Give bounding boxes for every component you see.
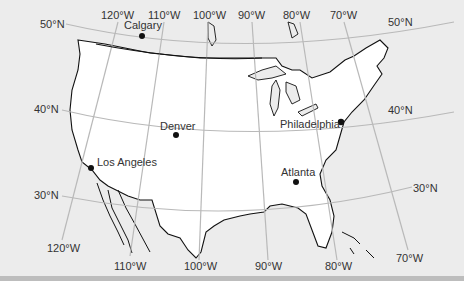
label-40n-right: 40°N [388, 104, 413, 116]
city-label-calgary: Calgary [124, 19, 162, 31]
label-90w-bottom: 90°W [255, 260, 283, 272]
label-70w-top: 70°W [330, 9, 358, 21]
city-label-los-angeles: Los Angeles [97, 156, 157, 168]
label-110w-bottom: 110°W [114, 260, 147, 272]
city-dot-atlanta [293, 179, 299, 185]
label-70w-bottom: 70°W [396, 252, 424, 264]
us-landmass [70, 40, 388, 258]
island-north-2 [288, 22, 298, 38]
bottom-edge-bar [0, 276, 464, 281]
label-90w-top: 90°W [238, 9, 266, 21]
map-canvas: 50°N 50°N 40°N 40°N 30°N 30°N 120°W 110°… [0, 0, 464, 276]
city-label-denver: Denver [160, 120, 196, 132]
label-40n-left: 40°N [34, 103, 59, 115]
map-container: 50°N 50°N 40°N 40°N 30°N 30°N 120°W 110°… [0, 0, 464, 276]
label-100w-bottom: 100°W [184, 260, 218, 272]
label-30n-right: 30°N [413, 182, 438, 194]
label-100w-top: 100°W [193, 9, 227, 21]
label-30n-left: 30°N [34, 189, 59, 201]
bahamas [342, 232, 374, 258]
city-label-atlanta: Atlanta [281, 166, 316, 178]
label-80w-bottom: 80°W [325, 260, 353, 272]
label-50n-left: 50°N [40, 18, 65, 30]
city-dot-denver [173, 132, 179, 138]
mexico-coast-inner [108, 190, 132, 253]
city-dot-calgary [139, 33, 145, 39]
label-50n-right: 50°N [388, 16, 413, 28]
label-80w-top: 80°W [283, 9, 311, 21]
city-label-philadelphia: Philadelphia [280, 118, 341, 130]
label-120w-bottom: 120°W [47, 242, 81, 254]
city-dot-los-angeles [88, 165, 94, 171]
